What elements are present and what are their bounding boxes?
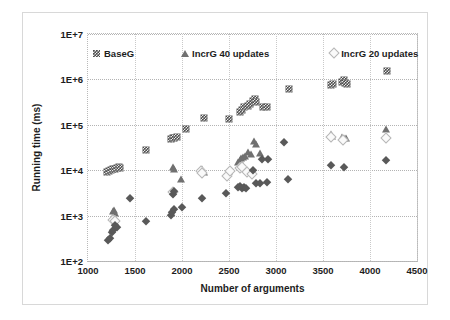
gridline-horizontal — [88, 261, 417, 262]
chart-container: Running time (ms) 1E+21E+31E+41E+51E+61E… — [0, 0, 450, 320]
data-point — [170, 166, 178, 173]
gridline-horizontal — [88, 125, 417, 126]
data-point — [252, 140, 260, 147]
legend-item-incrg-20-updates[interactable]: IncrG 20 updates — [329, 48, 418, 59]
data-point — [382, 156, 390, 164]
x-axis-tick-label: 4500 — [406, 265, 427, 276]
data-point — [281, 138, 289, 146]
data-point — [226, 115, 233, 122]
data-point — [198, 194, 206, 202]
data-point — [286, 85, 293, 92]
gridline-vertical — [276, 34, 277, 261]
x-axis-tick-label: 3500 — [312, 265, 333, 276]
data-point — [247, 150, 255, 157]
data-point — [117, 164, 124, 171]
data-point — [143, 146, 150, 153]
legend-marker-icon — [92, 49, 101, 58]
x-axis-tick-label: 1000 — [77, 265, 98, 276]
x-axis-tick-label: 2500 — [218, 265, 239, 276]
data-point — [383, 68, 390, 75]
y-axis-tick-label: 1E+5 — [61, 119, 83, 130]
gridline-vertical — [229, 34, 230, 261]
chart-legend: BaseGIncrG 40 updatesIncrG 20 updatesInc… — [92, 44, 414, 62]
data-point — [284, 175, 292, 183]
legend-item-incrg-40-updates[interactable]: IncrG 40 updates — [180, 48, 269, 59]
data-point — [327, 161, 335, 169]
x-axis-label: Number of arguments — [87, 283, 418, 294]
data-point — [382, 125, 390, 132]
gridline-horizontal — [88, 34, 417, 35]
data-point — [173, 133, 180, 140]
legend-label: IncrG 20 updates — [341, 48, 418, 59]
gridline-horizontal — [88, 216, 417, 217]
data-point — [263, 178, 271, 186]
data-point — [256, 179, 264, 187]
y-axis-tick-label: 1E+6 — [61, 74, 83, 85]
data-point — [142, 217, 150, 225]
data-point — [177, 175, 185, 182]
data-point — [126, 194, 134, 202]
data-point — [258, 155, 266, 163]
y-axis-label: Running time (ms) — [30, 33, 44, 262]
x-axis-tick-label: 4000 — [359, 265, 380, 276]
legend-label: IncrG 40 updates — [192, 48, 269, 59]
gridline-vertical — [135, 34, 136, 261]
data-point — [182, 125, 189, 132]
gridline-vertical — [417, 34, 418, 261]
data-point — [380, 133, 391, 144]
y-axis-tick-label: 1E+7 — [61, 29, 83, 40]
plot-area: 1E+21E+31E+41E+51E+61E+71000150020002500… — [87, 33, 418, 262]
x-axis-tick-label: 3000 — [265, 265, 286, 276]
x-axis-tick-label: 2000 — [171, 265, 192, 276]
legend-marker-icon — [329, 49, 338, 58]
y-axis-tick-label: 1E+3 — [61, 210, 83, 221]
y-axis-tick-label: 1E+4 — [61, 165, 83, 176]
x-axis-tick-label: 1500 — [124, 265, 145, 276]
legend-item-baseg[interactable]: BaseG — [92, 48, 134, 59]
gridline-vertical — [323, 34, 324, 261]
legend-label: BaseG — [104, 48, 134, 59]
gridline-horizontal — [88, 79, 417, 80]
data-point — [263, 104, 270, 111]
gridline-vertical — [370, 34, 371, 261]
data-point — [200, 115, 207, 122]
legend-marker-icon — [180, 49, 189, 58]
data-point — [343, 81, 350, 88]
gridline-vertical — [182, 34, 183, 261]
data-point — [330, 81, 337, 88]
data-point — [178, 203, 186, 211]
